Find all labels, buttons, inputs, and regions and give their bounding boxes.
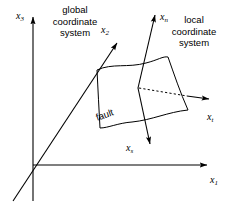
fault-patch-right-edge: [168, 57, 188, 110]
global-coordinate-system-caption: global coordinate system: [40, 4, 110, 39]
fault-patch-top-edge: [97, 57, 168, 70]
axis-x2-line: [13, 43, 117, 201]
axis-xs-line: [138, 88, 150, 144]
axis-label-xs: xs: [125, 142, 133, 155]
axis-label-x3: x3: [15, 10, 24, 23]
local-coordinate-system-caption: local coordinate system: [160, 14, 228, 49]
figure-root: x3 x2 x1 xn xs xt global coordinate syst…: [0, 0, 232, 212]
axis-label-x1: x1: [209, 174, 218, 187]
axis-label-xt: xt: [206, 111, 214, 124]
axis-xt-line: [187, 96, 209, 99]
axis-xn-line: [138, 15, 155, 88]
